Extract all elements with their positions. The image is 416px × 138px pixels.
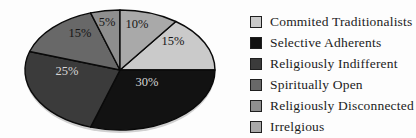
slice-percentage-label-selective-adherents: 30%: [136, 75, 159, 89]
slice-percentage-label-religiously-disconnected: 5%: [99, 15, 116, 29]
legend-item-spiritually-open: Spiritually Open: [250, 74, 414, 95]
pie-chart-figure: 15%30%25%15%5%10% Commited Traditionalis…: [0, 0, 416, 138]
legend-item-religiously-disconnected: Religiously Disconnected: [250, 95, 414, 116]
legend-swatch-icon: [250, 79, 262, 91]
chart-legend: Commited TraditionalistsSelective Adhere…: [250, 11, 414, 137]
legend-item-commited-traditionalists: Commited Traditionalists: [250, 11, 414, 32]
slice-percentage-label-religiously-indifferent: 25%: [56, 64, 79, 78]
legend-swatch-icon: [250, 121, 262, 133]
legend-item-selective-adherents: Selective Adherents: [250, 32, 414, 53]
legend-label: Religiously Disconnected: [270, 98, 414, 114]
legend-swatch-icon: [250, 37, 262, 49]
legend-item-religiously-indifferent: Religiously Indifferent: [250, 53, 414, 74]
legend-label: Irrelgious: [270, 119, 324, 135]
legend-label: Spiritually Open: [270, 77, 363, 93]
legend-swatch-icon: [250, 100, 262, 112]
legend-swatch-icon: [250, 58, 262, 70]
legend-label: Selective Adherents: [270, 35, 381, 51]
slice-percentage-label-irrelgious: 10%: [126, 17, 149, 31]
legend-label: Religiously Indifferent: [270, 56, 398, 72]
legend-swatch-icon: [250, 16, 262, 28]
legend-item-irrelgious: Irrelgious: [250, 116, 414, 137]
slice-percentage-label-commited-traditionalists: 15%: [162, 34, 185, 48]
slice-percentage-label-spiritually-open: 15%: [69, 26, 92, 40]
legend-label: Commited Traditionalists: [270, 14, 412, 30]
